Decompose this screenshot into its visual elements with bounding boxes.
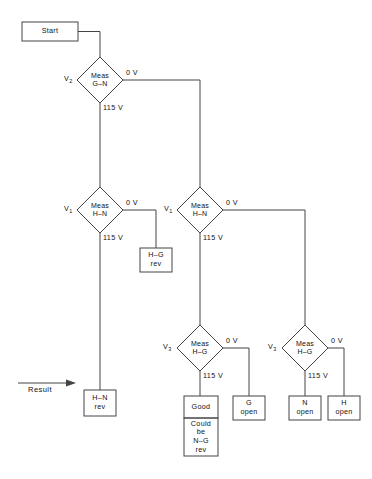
decision-v1-left-yes-label: 0 V xyxy=(126,198,138,207)
decision-v3-mid-yes-label: 0 V xyxy=(226,336,238,345)
decision-v2-line1: Meas xyxy=(91,72,109,80)
decision-v2-no-label: 115 V xyxy=(103,103,123,112)
decision-v3-mid: Meas H–G xyxy=(177,325,223,371)
decision-v3-mid-line2: H–G xyxy=(193,348,208,356)
start-label: Start xyxy=(42,27,59,36)
terminal-could-be-line4: rev xyxy=(196,446,207,455)
decision-v3-right-line1: Meas xyxy=(296,340,314,348)
terminal-g-open: G open xyxy=(233,396,265,420)
decision-v1-mid-var: V1 xyxy=(164,204,173,214)
terminal-hg-rev: H–G rev xyxy=(140,248,172,272)
result-label: Result xyxy=(28,385,52,394)
decision-v3-right-line2: H–G xyxy=(298,348,313,356)
decision-v2-var: V2 xyxy=(64,74,73,84)
decision-v1-left: Meas H–N xyxy=(77,187,123,233)
terminal-n-open-line2: open xyxy=(296,408,313,417)
terminal-h-open: H open xyxy=(328,396,360,420)
decision-v1-left-var: V1 xyxy=(64,204,73,214)
terminal-good-line1: Good xyxy=(192,403,211,412)
decision-v3-mid-no-label: 115 V xyxy=(203,371,223,380)
decision-v1-mid-line1: Meas xyxy=(191,202,209,210)
decision-v1-left-line2: H–N xyxy=(93,210,108,218)
decision-v3-right-yes-label: 0 V xyxy=(331,336,343,345)
decision-v1-mid: Meas H–N xyxy=(177,187,223,233)
terminal-h-open-line2: open xyxy=(335,408,352,417)
decision-v2-line2: G–N xyxy=(93,80,108,88)
terminal-hn-rev-line2: rev xyxy=(95,403,106,412)
decision-v3-mid-var: V3 xyxy=(163,342,172,352)
decision-v2: Meas G–N xyxy=(77,57,123,103)
terminal-good: Good xyxy=(184,396,218,418)
decision-v1-mid-no-label: 115 V xyxy=(203,233,223,242)
decision-v1-left-line1: Meas xyxy=(91,202,109,210)
terminal-could-be: Could be N–G rev xyxy=(184,418,218,456)
decision-v2-yes-label: 0 V xyxy=(126,68,138,77)
result-arrow-head xyxy=(66,380,76,387)
decision-v1-left-no-label: 115 V xyxy=(103,233,123,242)
decision-v3-right: Meas H–G xyxy=(282,325,328,371)
decision-v3-right-no-label: 115 V xyxy=(308,371,328,380)
terminal-n-open: N open xyxy=(289,396,321,420)
terminal-hg-rev-line2: rev xyxy=(151,260,162,269)
terminal-hn-rev: H–N rev xyxy=(84,390,116,416)
decision-v1-mid-line2: H–N xyxy=(193,210,208,218)
start-box: Start xyxy=(22,22,78,41)
terminal-g-open-line2: open xyxy=(240,408,257,417)
decision-v1-mid-yes-label: 0 V xyxy=(226,198,238,207)
decision-v3-mid-line1: Meas xyxy=(191,340,209,348)
decision-v3-right-var: V3 xyxy=(268,342,277,352)
